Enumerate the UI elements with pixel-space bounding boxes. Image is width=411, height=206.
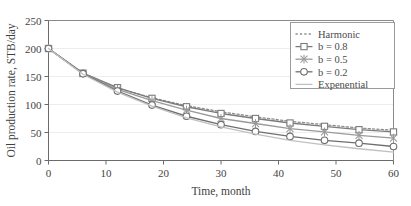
legend-swatch-marker-3-circle — [301, 69, 308, 76]
x-tick-label-20: 20 — [158, 167, 170, 179]
y-tick-label-200: 200 — [25, 43, 42, 55]
series-3-marker-8-circle — [321, 137, 328, 144]
legend-label-0: Harmonic — [318, 29, 360, 40]
series-3-marker-9 — [356, 140, 363, 147]
x-tick-label-50: 50 — [331, 167, 343, 179]
x-axis-ticks: 0102030405060 — [46, 161, 400, 179]
series-3-marker-7 — [287, 133, 294, 140]
series-3-marker-8 — [321, 137, 328, 144]
decline-curve-chart: 0501001502002500102030405060Time, monthO… — [0, 0, 411, 206]
x-tick-label-40: 40 — [273, 167, 285, 179]
y-tick-label-50: 50 — [31, 127, 43, 139]
legend-swatch-marker-1 — [301, 44, 307, 50]
y-axis-ticks: 050100150200250 — [25, 15, 49, 167]
legend-swatch-marker-1-square — [301, 44, 307, 50]
y-tick-label-250: 250 — [25, 15, 42, 27]
legend-label-2: b = 0.5 — [318, 54, 348, 65]
series-3-marker-10 — [390, 143, 397, 150]
series-3-marker-7-circle — [287, 133, 294, 140]
x-tick-label-10: 10 — [101, 167, 113, 179]
x-tick-label-0: 0 — [46, 167, 52, 179]
y-tick-label-0: 0 — [36, 155, 42, 167]
y-tick-label-100: 100 — [25, 99, 42, 111]
series-3-marker-9-circle — [356, 140, 363, 147]
x-tick-label-30: 30 — [216, 167, 228, 179]
legend: Harmonicb = 0.8b = 0.5b = 0.2Expenential — [291, 23, 395, 91]
legend-swatch-marker-3 — [301, 69, 308, 76]
legend-label-3: b = 0.2 — [318, 67, 348, 78]
legend-label-4: Expenential — [318, 79, 368, 90]
chart-figure: 0501001502002500102030405060Time, monthO… — [0, 0, 411, 206]
y-axis-title: Oil production rate, STB/day — [5, 23, 18, 157]
legend-label-1: b = 0.8 — [318, 41, 348, 52]
y-tick-label-150: 150 — [25, 71, 42, 83]
x-axis-title: Time, month — [191, 185, 250, 198]
x-tick-label-60: 60 — [388, 167, 400, 179]
series-3-marker-10-circle — [390, 143, 397, 150]
